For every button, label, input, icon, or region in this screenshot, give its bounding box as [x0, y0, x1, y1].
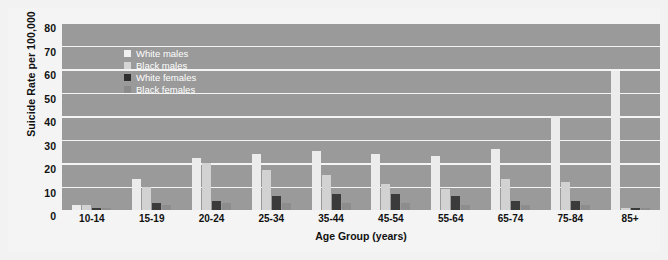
bar [212, 201, 221, 210]
bar-group [301, 22, 361, 210]
bar [491, 149, 500, 210]
x-tick-45-54: 45-54 [361, 213, 421, 224]
bar [391, 194, 400, 210]
x-tick-10-14: 10-14 [62, 213, 122, 224]
x-tick-75-84: 75-84 [540, 213, 600, 224]
bar [322, 175, 331, 210]
bar [132, 179, 141, 210]
bar [202, 163, 211, 210]
bar [551, 116, 560, 210]
x-tick-25-34: 25-34 [241, 213, 301, 224]
bar [381, 184, 390, 210]
chart-page: Suicide Rate per 100,000 807060504030201… [0, 0, 668, 260]
legend-label: Black males [136, 60, 187, 71]
bar [102, 208, 111, 210]
legend-item: White males [124, 48, 196, 59]
bar [451, 196, 460, 210]
bar-group [481, 22, 541, 210]
legend-item: Black females [124, 84, 196, 95]
legend-swatch-icon [124, 62, 131, 69]
bar [441, 189, 450, 210]
bar [272, 196, 281, 210]
y-tick-50: 50 [30, 93, 56, 105]
bar [371, 154, 380, 210]
x-tick-20-24: 20-24 [182, 213, 242, 224]
x-tick-55-64: 55-64 [421, 213, 481, 224]
bar [82, 205, 91, 210]
legend-item: White females [124, 72, 196, 83]
bar-group [540, 22, 600, 210]
bar [401, 203, 410, 210]
bar [461, 205, 470, 210]
legend-label: Black females [136, 84, 195, 95]
bar [152, 203, 161, 210]
bar [162, 205, 171, 210]
bar [631, 208, 640, 210]
bar [72, 205, 81, 210]
bar [571, 201, 580, 210]
bar [192, 158, 201, 210]
bar [511, 201, 520, 210]
y-tick-60: 60 [30, 69, 56, 81]
bar [312, 151, 321, 210]
y-tick-30: 30 [30, 140, 56, 152]
bar-group [600, 22, 660, 210]
bar-group [62, 22, 122, 210]
bar-group [241, 22, 301, 210]
bar [142, 187, 151, 211]
y-tick-10: 10 [30, 187, 56, 199]
bar [581, 205, 590, 210]
bar [621, 208, 630, 210]
x-tick-65-74: 65-74 [481, 213, 541, 224]
figure-area: Suicide Rate per 100,000 807060504030201… [8, 8, 660, 252]
y-tick-70: 70 [30, 46, 56, 58]
legend-swatch-icon [124, 50, 131, 57]
x-tick-35-44: 35-44 [301, 213, 361, 224]
y-axis-tick-labels: 80706050403020100 [30, 22, 56, 216]
legend: White malesBlack malesWhite femalesBlack… [124, 48, 196, 96]
x-axis-title: Age Group (years) [62, 230, 660, 242]
bar-group [361, 22, 421, 210]
bar [282, 203, 291, 210]
bar [342, 203, 351, 210]
legend-swatch-icon [124, 86, 131, 93]
x-tick-15-19: 15-19 [122, 213, 182, 224]
legend-label: White males [136, 48, 188, 59]
bar [561, 182, 570, 210]
bar [641, 208, 650, 210]
legend-item: Black males [124, 60, 196, 71]
bar [92, 208, 101, 210]
y-tick-20: 20 [30, 163, 56, 175]
bar [431, 156, 440, 210]
x-axis-tick-labels: 10-1415-1920-2425-3435-4445-5455-6465-74… [62, 213, 660, 224]
legend-label: White females [136, 72, 196, 83]
bar [501, 179, 510, 210]
bar [521, 205, 530, 210]
bar [252, 154, 261, 210]
y-tick-0: 0 [30, 210, 56, 222]
bar-group [421, 22, 481, 210]
legend-swatch-icon [124, 74, 131, 81]
bar [332, 194, 341, 210]
x-tick-85+: 85+ [600, 213, 660, 224]
bar [222, 203, 231, 210]
y-tick-40: 40 [30, 116, 56, 128]
plot-area: White malesBlack malesWhite femalesBlack… [62, 22, 660, 210]
bar [262, 170, 271, 210]
y-tick-80: 80 [30, 22, 56, 34]
bar [611, 71, 620, 210]
